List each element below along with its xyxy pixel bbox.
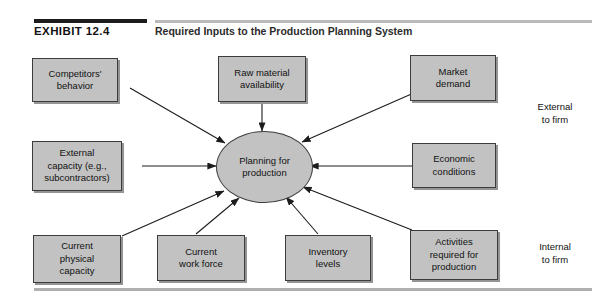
node-label: Current physical capacity — [60, 240, 95, 278]
exhibit-page: EXHIBIT 12.4 Required Inputs to the Prod… — [0, 0, 611, 304]
annotation-external-to-firm: External to firm — [518, 101, 592, 126]
node-label: Inventory levels — [308, 246, 347, 271]
node-label: Market demand — [436, 66, 470, 91]
arrow-competitors-behavior — [130, 88, 225, 143]
node-market-demand[interactable]: Market demand — [410, 55, 496, 101]
node-label: External capacity (e.g., subcontractors) — [44, 147, 109, 185]
hub-label: Planning for production — [239, 155, 290, 180]
footer-rule — [34, 288, 592, 291]
node-inventory-levels[interactable]: Inventory levels — [285, 235, 371, 281]
node-label: Current work force — [179, 246, 223, 271]
arrow-market-demand — [302, 92, 416, 142]
node-raw-material-availability[interactable]: Raw material availability — [218, 56, 306, 102]
exhibit-number: EXHIBIT 12.4 — [34, 25, 110, 37]
arrow-activities-required — [303, 187, 412, 230]
annotation-internal-to-firm: Internal to firm — [518, 241, 592, 266]
arrow-inventory-levels — [286, 197, 318, 234]
hub-planning-for-production[interactable]: Planning for production — [216, 131, 313, 203]
exhibit-title: Required Inputs to the Production Planni… — [155, 25, 412, 37]
node-external-capacity[interactable]: External capacity (e.g., subcontractors) — [32, 141, 122, 191]
arrow-current-work-force — [196, 198, 239, 234]
node-activities-required[interactable]: Activities required for production — [410, 230, 498, 280]
node-economic-conditions[interactable]: Economic conditions — [412, 143, 496, 188]
arrow-current-physical-capacity — [122, 191, 224, 236]
node-label: Activities required for production — [430, 236, 479, 274]
node-label: Competitors' behavior — [48, 68, 101, 93]
node-label: Economic conditions — [433, 153, 476, 178]
node-current-work-force[interactable]: Current work force — [157, 235, 245, 281]
node-competitors-behavior[interactable]: Competitors' behavior — [32, 58, 118, 102]
header-rule-light — [155, 20, 592, 23]
node-label: Raw material availability — [234, 67, 289, 92]
header-rule-dark — [34, 19, 147, 23]
node-current-physical-capacity[interactable]: Current physical capacity — [33, 235, 121, 283]
